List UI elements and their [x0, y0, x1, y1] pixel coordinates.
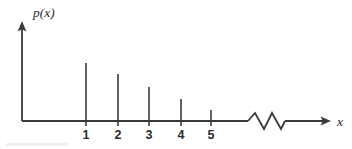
scan-artifact	[6, 143, 68, 146]
x-tick-label: 4	[178, 128, 185, 142]
x-tick-label: 3	[146, 128, 153, 142]
x-axis-label: x	[336, 114, 343, 129]
x-tick-label: 1	[83, 128, 90, 142]
y-axis-label: p(x)	[32, 5, 55, 20]
x-tick-label-group: 1 2 3 4 5	[83, 128, 215, 142]
stem-group	[86, 63, 211, 121]
x-tick-label: 2	[115, 128, 122, 142]
stem-plot-canvas: 1 2 3 4 5 p(x) x	[0, 0, 352, 149]
axis-break-zigzag-icon	[248, 113, 285, 129]
x-axis-group	[22, 113, 331, 129]
figure-container: 1 2 3 4 5 p(x) x	[0, 0, 352, 149]
y-axis-group	[18, 21, 27, 121]
x-tick-label: 5	[208, 128, 215, 142]
